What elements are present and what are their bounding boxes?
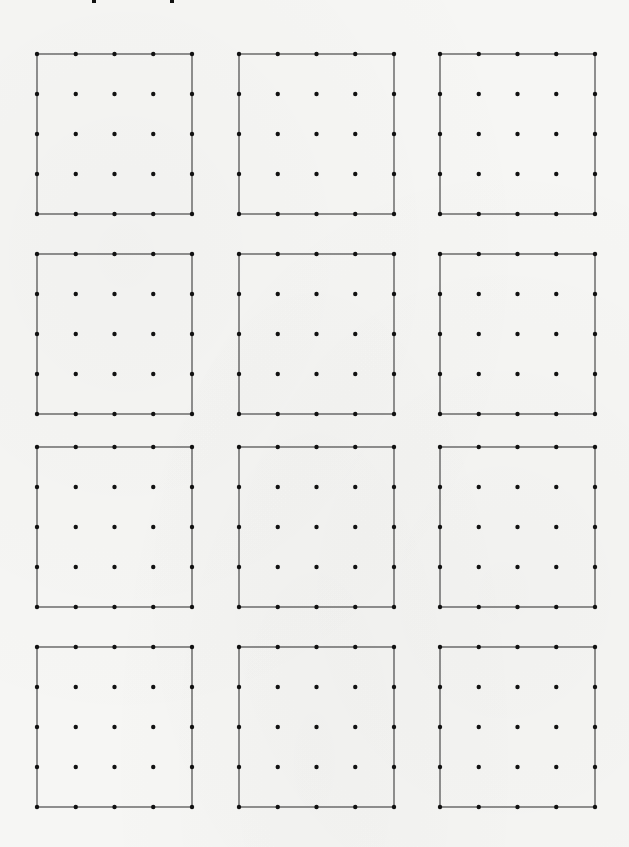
grid-dot <box>276 805 280 809</box>
grid-dot <box>353 372 357 376</box>
grid-dot <box>515 765 519 769</box>
grid-dot <box>314 52 318 56</box>
grid-dot <box>276 212 280 216</box>
grid-dot <box>35 252 39 256</box>
grid-dot <box>353 805 357 809</box>
grid-dot <box>151 565 155 569</box>
grid-dot <box>314 765 318 769</box>
grid-dot <box>554 605 558 609</box>
grid-dot <box>112 292 116 296</box>
grid-dot <box>477 725 481 729</box>
grid-dot <box>237 132 241 136</box>
grid-dot <box>276 765 280 769</box>
grid-dot <box>74 92 78 96</box>
grid-dot <box>353 52 357 56</box>
grid-dot <box>438 252 442 256</box>
grid-dot <box>190 172 194 176</box>
grid-dot <box>190 132 194 136</box>
grid-dot <box>554 645 558 649</box>
grid-dot <box>314 525 318 529</box>
grid-dot <box>554 412 558 416</box>
grid-dot <box>74 565 78 569</box>
grid-dot <box>593 212 597 216</box>
grid-dot <box>276 332 280 336</box>
grid-dot <box>237 372 241 376</box>
grid-dot <box>190 332 194 336</box>
grid-dot <box>515 605 519 609</box>
grid-dot <box>438 92 442 96</box>
grid-dot <box>477 645 481 649</box>
grid-dot <box>35 485 39 489</box>
grid-dot <box>554 565 558 569</box>
grid-dot <box>74 292 78 296</box>
grid-dot <box>353 412 357 416</box>
grid-dot <box>112 765 116 769</box>
grid-dot <box>190 525 194 529</box>
grid-dot <box>438 332 442 336</box>
grid-dot <box>554 172 558 176</box>
grid-dot <box>151 765 155 769</box>
grid-dot <box>392 212 396 216</box>
geoboard-2-1 <box>37 254 192 414</box>
grid-dot <box>554 92 558 96</box>
grid-dot <box>438 172 442 176</box>
grid-dot <box>353 765 357 769</box>
grid-dot <box>112 212 116 216</box>
grid-dot <box>515 805 519 809</box>
grid-dot <box>515 212 519 216</box>
grid-dot <box>190 685 194 689</box>
grid-dot <box>74 645 78 649</box>
grid-dot <box>190 252 194 256</box>
grid-dot <box>353 685 357 689</box>
grid-dot <box>190 372 194 376</box>
grid-dot <box>74 765 78 769</box>
grid-dot <box>515 172 519 176</box>
grid-dot <box>593 372 597 376</box>
grid-dot <box>112 445 116 449</box>
grid-dot <box>112 252 116 256</box>
grid-dot <box>438 52 442 56</box>
grid-dot <box>353 292 357 296</box>
grid-dot <box>477 765 481 769</box>
grid-dot <box>112 645 116 649</box>
grid-dot <box>554 252 558 256</box>
grid-dot <box>237 605 241 609</box>
grid-dot <box>190 725 194 729</box>
grid-dot <box>314 412 318 416</box>
grid-dot <box>438 685 442 689</box>
grid-dot <box>74 445 78 449</box>
grid-dot <box>554 685 558 689</box>
grid-dot <box>112 92 116 96</box>
grid-dot <box>392 685 396 689</box>
grid-dot <box>35 445 39 449</box>
grid-dot <box>593 605 597 609</box>
grid-dot <box>593 645 597 649</box>
grid-dot <box>353 645 357 649</box>
grid-dot <box>35 172 39 176</box>
grid-dot <box>151 605 155 609</box>
grid-dot <box>151 445 155 449</box>
grid-dot <box>438 645 442 649</box>
grid-dot <box>438 725 442 729</box>
grid-dot <box>392 92 396 96</box>
grid-dot <box>554 132 558 136</box>
grid-dot <box>438 605 442 609</box>
grid-dot <box>515 645 519 649</box>
grid-dot <box>554 765 558 769</box>
grid-dot <box>593 485 597 489</box>
grid-dot <box>276 412 280 416</box>
grid-dot <box>35 525 39 529</box>
grid-dot <box>554 52 558 56</box>
grid-dot <box>276 132 280 136</box>
grid-dot <box>314 445 318 449</box>
grid-dot <box>35 52 39 56</box>
grid-dot <box>151 52 155 56</box>
grid-dot <box>392 725 396 729</box>
grid-dot <box>237 645 241 649</box>
grid-dot <box>112 172 116 176</box>
grid-dot <box>392 52 396 56</box>
geoboard-3-1 <box>37 447 192 607</box>
grid-dot <box>35 212 39 216</box>
grid-dot <box>112 605 116 609</box>
grid-dot <box>477 525 481 529</box>
